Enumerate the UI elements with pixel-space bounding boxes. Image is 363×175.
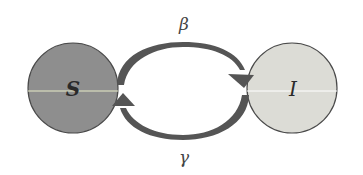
sis-diagram: S I β γ — [0, 0, 363, 175]
node-i-label: I — [288, 77, 298, 101]
beta-label: β — [178, 14, 189, 34]
gamma-label: γ — [179, 147, 190, 167]
arrow-i-to-s — [112, 93, 249, 140]
node-s-label: S — [66, 77, 80, 101]
arrow-s-to-i — [117, 42, 254, 88]
